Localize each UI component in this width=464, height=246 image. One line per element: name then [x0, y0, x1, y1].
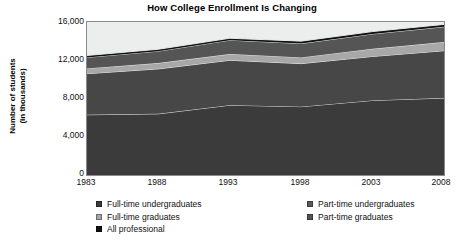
legend-label: Full-time graduates — [107, 212, 180, 222]
enrollment-area-chart: How College Enrollment Is Changing Numbe… — [0, 0, 464, 246]
x-tick-1988: 1988 — [137, 177, 177, 187]
x-tick-1993: 1993 — [208, 177, 248, 187]
legend-column-right: Part-time undergraduates Part-time gradu… — [307, 198, 414, 223]
x-tick-1983: 1983 — [66, 177, 106, 187]
y-tick-8000: 8,000 — [6, 93, 84, 102]
legend-swatch-icon — [96, 226, 102, 232]
stacked-area-plot — [87, 22, 444, 175]
legend-item-full-time-undergraduates[interactable]: Full-time undergraduates — [96, 198, 202, 211]
y-tick-16000: 16,000 — [6, 17, 84, 26]
legend-label: All professional — [107, 224, 165, 234]
legend-swatch-icon — [96, 201, 102, 207]
legend-item-part-time-undergraduates[interactable]: Part-time undergraduates — [307, 198, 414, 211]
legend-swatch-icon — [307, 214, 313, 220]
plot-area — [86, 21, 445, 176]
legend-column-left: Full-time undergraduates Full-time gradu… — [96, 198, 202, 236]
legend-label: Part-time undergraduates — [318, 199, 414, 209]
legend-swatch-icon — [96, 214, 102, 220]
y-axis-ticks: 16,000 12,000 8,000 4,000 0 — [0, 0, 84, 200]
legend-swatch-icon — [307, 201, 313, 207]
y-tick-4000: 4,000 — [6, 131, 84, 140]
legend-item-part-time-graduates[interactable]: Part-time graduates — [307, 211, 414, 224]
legend-item-all-professional[interactable]: All professional — [96, 223, 202, 236]
y-tick-12000: 12,000 — [6, 55, 84, 64]
legend-label: Full-time undergraduates — [107, 199, 202, 209]
legend-label: Part-time graduates — [318, 212, 393, 222]
chart-legend: Full-time undergraduates Full-time gradu… — [0, 198, 464, 242]
x-tick-2003: 2003 — [351, 177, 391, 187]
x-tick-1998: 1998 — [280, 177, 320, 187]
legend-item-full-time-graduates[interactable]: Full-time graduates — [96, 211, 202, 224]
x-tick-2008: 2008 — [421, 177, 461, 187]
